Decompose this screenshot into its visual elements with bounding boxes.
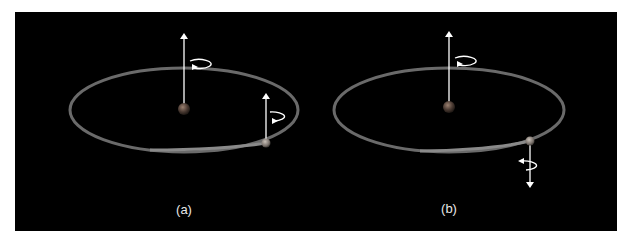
star-icon <box>443 101 455 113</box>
panel-b-label: (b) <box>441 201 457 216</box>
planet-rotation-arrow-icon <box>518 158 537 170</box>
panel-a <box>70 36 298 152</box>
planet-rotation-arrow-icon <box>270 112 285 124</box>
panel-b <box>334 34 564 185</box>
star-rotation-arrow-icon <box>455 56 476 67</box>
panel-a-label: (a) <box>176 202 192 217</box>
orbit-diagram <box>0 0 633 244</box>
orbit-front-arc <box>150 143 266 150</box>
planet-icon <box>262 139 271 148</box>
planet-icon <box>526 137 535 146</box>
star-icon <box>178 103 190 115</box>
